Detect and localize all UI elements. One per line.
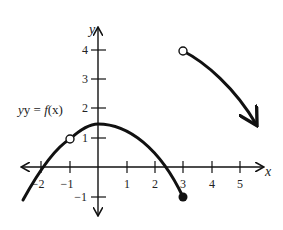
y-tick-labels: −1 1 2 3 4: [74, 43, 88, 204]
svg-text:−1: −1: [74, 190, 87, 204]
curve-piece-2: [183, 51, 256, 124]
svg-text:5: 5: [237, 177, 243, 191]
svg-text:4: 4: [209, 177, 215, 191]
svg-text:3: 3: [82, 72, 88, 86]
svg-text:3: 3: [180, 177, 186, 191]
curve-piece-1: [23, 124, 183, 200]
y-axis-label: y: [87, 22, 96, 37]
svg-text:1: 1: [82, 131, 88, 145]
svg-text:1: 1: [124, 177, 130, 191]
function-graph: −2 −1 1 2 3 4 5 −1 1 2 3 4 x y yy = f(x): [0, 0, 283, 230]
function-label: yy = f(x): [16, 102, 63, 117]
svg-text:4: 4: [82, 43, 88, 57]
closed-point-3-neg1: [179, 193, 188, 202]
x-axis-label: x: [264, 164, 272, 179]
svg-text:2: 2: [82, 101, 88, 115]
open-point-3-4: [179, 47, 187, 55]
open-point-neg1-1: [66, 135, 74, 143]
svg-text:−1: −1: [61, 177, 74, 191]
x-tick-labels: −2 −1 1 2 3 4 5: [32, 177, 243, 191]
svg-text:2: 2: [152, 177, 158, 191]
